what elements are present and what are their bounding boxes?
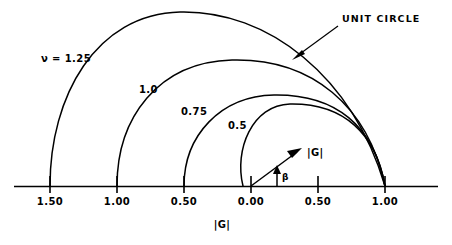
- curve-label-1-0: 1.0: [139, 84, 158, 95]
- curve-nu-0-5: [241, 104, 385, 186]
- unit-circle-label: UNIT CIRCLE: [342, 13, 420, 24]
- curve-label-0-5: 0.5: [228, 120, 247, 131]
- curve-nu-1-25: [50, 12, 385, 186]
- curve-label-0-75: 0.75: [181, 106, 207, 117]
- tick-label-1-00-left: 1.00: [104, 196, 130, 207]
- curve-nu-1-0: [117, 60, 385, 186]
- phase-angle-label: β: [282, 172, 289, 182]
- tick-label-0-50-right: 0.50: [305, 196, 331, 207]
- plot-canvas: 1.50 1.00 0.50 0.00 0.50 1.00 |G| ν = 1.…: [0, 0, 452, 245]
- magnitude-vector-label: |G|: [307, 147, 323, 159]
- curve-label-group: ν = 1.25 1.0 0.75 0.5: [41, 53, 247, 131]
- tick-label-group: 1.50 1.00 0.50 0.00 0.50 1.00: [37, 196, 398, 207]
- unit-circle-annotation: UNIT CIRCLE: [292, 13, 420, 60]
- axis-group: [14, 176, 438, 193]
- figure-container: 1.50 1.00 0.50 0.00 0.50 1.00 |G| ν = 1.…: [0, 0, 452, 245]
- tick-label-0-50-left: 0.50: [171, 196, 197, 207]
- tick-label-1-00-right: 1.00: [372, 196, 398, 207]
- unit-circle-arrowhead: [292, 50, 305, 60]
- magnitude-vector-line: [251, 152, 297, 186]
- unit-circle-leader-line: [297, 26, 338, 56]
- curve-group: [50, 12, 385, 186]
- curve-label-nu-1-25: ν = 1.25: [41, 53, 91, 64]
- magnitude-vector-arrowhead: [287, 148, 302, 158]
- tick-label-0-00: 0.00: [238, 196, 264, 207]
- tick-label-1-50: 1.50: [37, 196, 63, 207]
- x-axis-title: |G|: [214, 219, 231, 231]
